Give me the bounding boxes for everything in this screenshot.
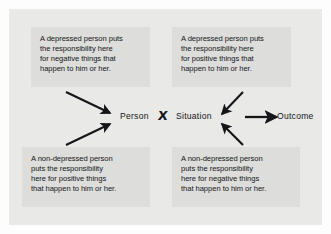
box-bottom-left-line-3: here for positive things bbox=[31, 174, 142, 184]
box-bottom-left-line-1: A non-depressed person bbox=[31, 154, 142, 164]
box-bottom-left-line-2: puts the responsibility bbox=[31, 164, 142, 174]
box-top-left-line-3: for negative things that bbox=[40, 54, 142, 64]
box-bottom-right-line-3: here for negative things bbox=[181, 174, 292, 184]
center-equation-row: Person X Situation Outcome bbox=[0, 107, 331, 129]
box-bottom-right-line-1: A non-depressed person bbox=[181, 154, 292, 164]
box-top-right: A depressed person puts the responsibili… bbox=[172, 27, 291, 87]
box-bottom-left: A non-depressed person puts the responsi… bbox=[22, 147, 150, 207]
box-top-left-line-1: A depressed person puts bbox=[40, 34, 142, 44]
box-top-left-line-2: the responsibility here bbox=[40, 44, 142, 54]
box-bottom-left-line-4: that happen to him or her. bbox=[31, 184, 142, 194]
panel-bottom-band bbox=[9, 207, 322, 225]
box-bottom-right: A non-depressed person puts the responsi… bbox=[172, 147, 300, 207]
box-top-right-line-2: the responsibility here bbox=[181, 44, 283, 54]
box-top-left: A depressed person puts the responsibili… bbox=[31, 27, 150, 87]
outcome-label: Outcome bbox=[277, 111, 314, 121]
box-top-right-line-3: for positive things that bbox=[181, 54, 283, 64]
person-label: Person bbox=[120, 111, 149, 121]
box-bottom-right-line-2: puts the responsibility bbox=[181, 164, 292, 174]
box-top-right-line-1: A depressed person puts bbox=[181, 34, 283, 44]
situation-label: Situation bbox=[176, 111, 212, 121]
figure-canvas: A depressed person puts the responsibili… bbox=[0, 0, 331, 234]
box-bottom-right-line-4: that happen to him or her. bbox=[181, 184, 292, 194]
box-top-right-line-4: happen to him or her. bbox=[181, 64, 283, 74]
multiplication-x-icon: X bbox=[157, 108, 168, 123]
box-top-left-line-4: happen to him or her. bbox=[40, 64, 142, 74]
